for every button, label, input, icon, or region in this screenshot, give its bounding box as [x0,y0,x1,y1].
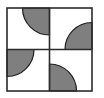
quadrant-pattern-figure [0,0,104,98]
figure-root [0,0,104,98]
